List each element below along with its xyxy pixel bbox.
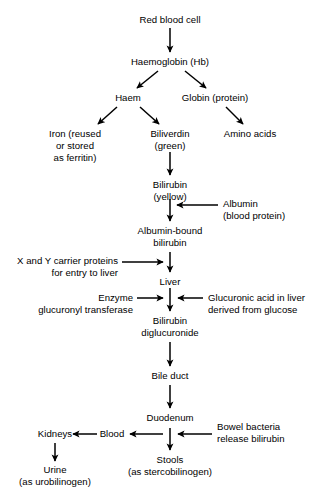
node-bilirubin-diglucuronide: Bilirubin diglucuronide <box>141 315 198 339</box>
node-kidneys: Kidneys <box>38 428 72 440</box>
arrow-globin-to-amino-acids <box>226 107 243 124</box>
node-albumin: Albumin (blood protein) <box>223 198 285 222</box>
node-haem-line1: Haem <box>115 92 141 104</box>
node-albumin-bound-line2: bilirubin <box>138 237 203 249</box>
node-bilirubin-diglucuronide-line1: Bilirubin <box>141 315 198 327</box>
node-iron-line2: or stored <box>49 140 101 152</box>
node-bowel-bacteria-line2: release bilirubin <box>217 433 285 445</box>
node-glucuronic-acid-line2: derived from glucose <box>208 304 305 316</box>
node-biliverdin-line1: Biliverdin <box>150 128 189 140</box>
node-bile-duct: Bile duct <box>152 370 189 382</box>
node-albumin-line1: Albumin <box>223 198 285 210</box>
node-globin: Globin (protein) <box>182 92 248 104</box>
node-enzyme: Enzyme glucuronyl transferase <box>38 292 133 316</box>
node-liver: Liver <box>160 276 181 288</box>
node-liver-line1: Liver <box>160 276 181 288</box>
node-biliverdin: Biliverdin (green) <box>150 128 189 152</box>
node-carrier-proteins-line1: X and Y carrier proteins <box>17 255 118 267</box>
node-carrier-proteins-line2: for entry to liver <box>17 267 118 279</box>
node-haemoglobin-line1: Haemoglobin (Hb) <box>131 56 209 68</box>
node-bowel-bacteria: Bowel bacteria release bilirubin <box>217 421 285 445</box>
node-enzyme-line1: Enzyme <box>38 292 133 304</box>
node-carrier-proteins: X and Y carrier proteins for entry to li… <box>17 255 118 279</box>
node-blood: Blood <box>100 428 125 440</box>
node-bilirubin-line2: (yellow) <box>153 191 187 203</box>
node-bilirubin: Bilirubin (yellow) <box>153 179 187 203</box>
node-globin-line1: Globin (protein) <box>182 92 248 104</box>
node-kidneys-line1: Kidneys <box>38 428 72 440</box>
node-bilirubin-diglucuronide-line2: diglucuronide <box>141 327 198 339</box>
node-biliverdin-line2: (green) <box>150 140 189 152</box>
node-albumin-bound-line1: Albumin-bound <box>138 225 203 237</box>
arrow-haemoglobin-to-globin <box>185 71 206 88</box>
node-amino-acids-line1: Amino acids <box>224 128 276 140</box>
node-iron-line1: Iron (reused <box>49 128 101 140</box>
node-iron-line3: as ferritin) <box>49 152 101 164</box>
node-haem: Haem <box>115 92 141 104</box>
node-duodenum: Duodenum <box>146 412 193 424</box>
node-stools-line2: (as stercobilinogen) <box>128 466 212 478</box>
bilirubin-metabolism-flowchart: Red blood cell Haemoglobin (Hb) Haem Glo… <box>0 0 318 490</box>
node-urine: Urine (as urobilinogen) <box>19 464 91 488</box>
node-red-blood-cell: Red blood cell <box>139 14 200 26</box>
node-stools-line1: Stools <box>128 454 212 466</box>
node-red-blood-cell-line1: Red blood cell <box>139 14 200 26</box>
node-duodenum-line1: Duodenum <box>146 412 193 424</box>
node-enzyme-line2: glucuronyl transferase <box>38 304 133 316</box>
node-stools: Stools (as stercobilinogen) <box>128 454 212 478</box>
node-amino-acids: Amino acids <box>224 128 276 140</box>
node-iron: Iron (reused or stored as ferritin) <box>49 128 101 165</box>
node-glucuronic-acid: Glucuronic acid in liver derived from gl… <box>208 292 305 316</box>
node-albumin-line2: (blood protein) <box>223 210 285 222</box>
arrow-haem-to-iron <box>98 107 117 124</box>
node-albumin-bound-bilirubin: Albumin-bound bilirubin <box>138 225 203 249</box>
node-blood-line1: Blood <box>100 428 125 440</box>
node-urine-line1: Urine <box>19 464 91 476</box>
node-bile-duct-line1: Bile duct <box>152 370 189 382</box>
node-bilirubin-line1: Bilirubin <box>153 179 187 191</box>
node-urine-line2: (as urobilinogen) <box>19 476 91 488</box>
node-haemoglobin: Haemoglobin (Hb) <box>131 56 209 68</box>
node-glucuronic-acid-line1: Glucuronic acid in liver <box>208 292 305 304</box>
arrow-haem-to-biliverdin <box>140 107 159 124</box>
arrow-haemoglobin-to-haem <box>137 71 158 88</box>
node-bowel-bacteria-line1: Bowel bacteria <box>217 421 285 433</box>
